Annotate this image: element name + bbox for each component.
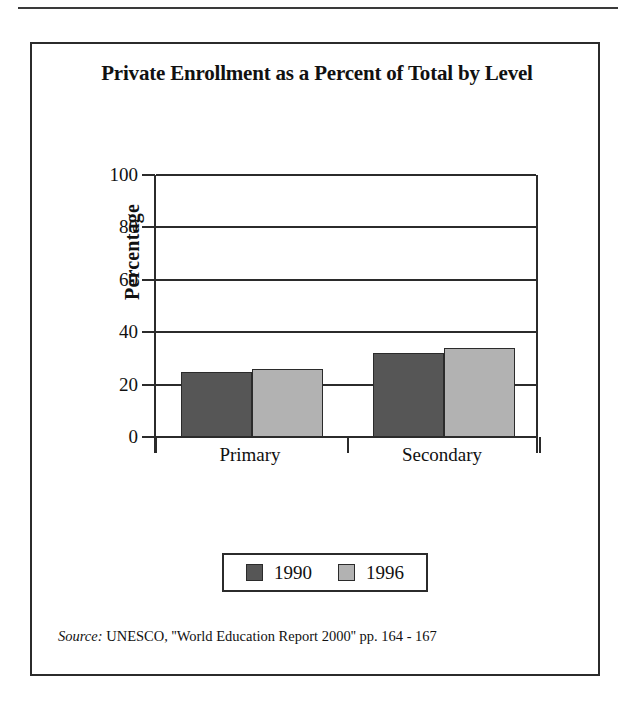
y-tick-label-80: 80 <box>78 216 138 238</box>
chart-plot-wrapper: Percentage 020406080100 PrimarySecondary… <box>32 44 598 674</box>
category-axis-labels: PrimarySecondary <box>154 444 538 474</box>
y-tick-mark-0 <box>142 436 155 438</box>
bar-primary-1996 <box>252 369 323 437</box>
y-tick-mark-40 <box>142 331 155 333</box>
y-axis-title: Percentage <box>121 162 147 342</box>
y-tick-label-0: 0 <box>78 426 138 448</box>
legend-item-1990[interactable]: 1990 <box>246 563 312 582</box>
legend-swatch-icon-1996 <box>338 564 355 581</box>
category-label-primary: Primary <box>154 444 346 466</box>
bar-secondary-1996 <box>444 348 515 437</box>
chart-legend: 1990 1996 <box>222 553 428 592</box>
y-tick-mark-80 <box>142 226 155 228</box>
bar-secondary-1990 <box>373 353 444 437</box>
y-tick-label-60: 60 <box>78 269 138 291</box>
figure-frame: Private Enrollment as a Percent of Total… <box>30 42 600 676</box>
bars-layer <box>156 175 536 437</box>
source-note: Source: UNESCO, ''World Education Report… <box>58 628 437 645</box>
y-tick-mark-100 <box>142 174 155 176</box>
source-label: Source: <box>58 628 103 644</box>
y-tick-label-40: 40 <box>78 321 138 343</box>
plot-area: 020406080100 <box>154 175 538 437</box>
legend-label-1996: 1996 <box>366 563 404 582</box>
page-top-rule <box>18 7 618 9</box>
bar-primary-1990 <box>181 372 252 438</box>
y-tick-label-20: 20 <box>78 374 138 396</box>
legend-item-1996[interactable]: 1996 <box>338 563 404 582</box>
y-tick-mark-60 <box>142 279 155 281</box>
plot-right-spine <box>536 175 538 453</box>
y-tick-label-100: 100 <box>78 164 138 186</box>
legend-label-1990: 1990 <box>274 563 312 582</box>
category-label-secondary: Secondary <box>346 444 538 466</box>
y-tick-mark-20 <box>142 384 155 386</box>
legend-swatch-icon-1990 <box>246 564 263 581</box>
category-tick-2 <box>539 437 541 453</box>
source-text: UNESCO, ''World Education Report 2000'' … <box>103 628 437 644</box>
